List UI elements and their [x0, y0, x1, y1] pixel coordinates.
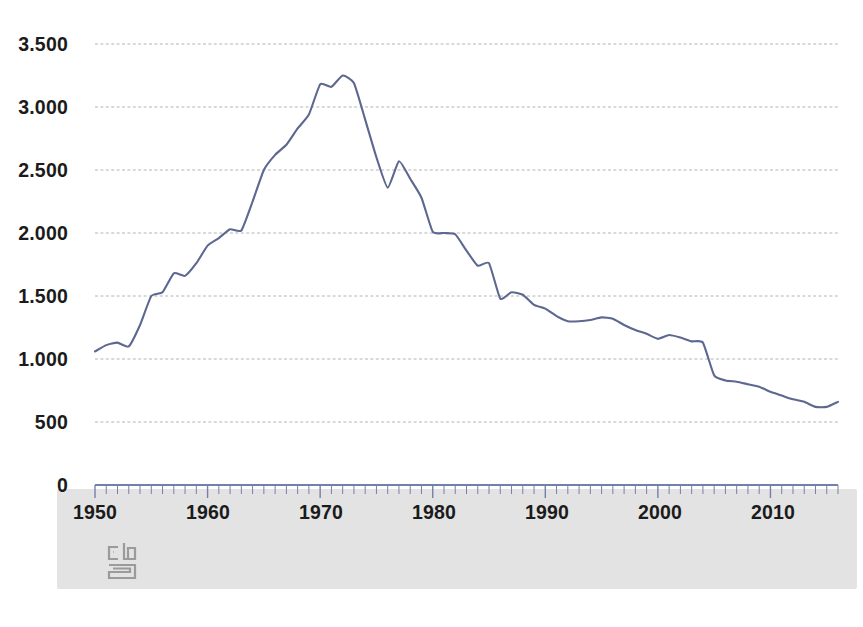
x-tick-label-1970: 1970: [281, 501, 361, 524]
x-axis: [95, 485, 838, 498]
cbs-logo-icon: [104, 541, 140, 583]
data-series-line: [95, 75, 838, 407]
x-tick-label-1950: 1950: [55, 501, 135, 524]
y-tick-label-500: 500: [0, 411, 68, 434]
gridlines: [95, 44, 838, 422]
x-tick-label-1960: 1960: [168, 501, 248, 524]
y-tick-label-3500: 3.500: [0, 33, 68, 56]
x-tick-label-1980: 1980: [394, 501, 474, 524]
x-tick-label-2010: 2010: [733, 501, 813, 524]
y-tick-label-1500: 1.500: [0, 285, 68, 308]
chart-container: 3.500 3.000 2.500 2.000 1.500 1.000 500 …: [0, 0, 863, 627]
chart-plot-area: [0, 0, 863, 627]
y-tick-label-1000: 1.000: [0, 348, 68, 371]
y-tick-label-0: 0: [0, 474, 68, 497]
x-tick-label-2000: 2000: [620, 501, 700, 524]
y-tick-label-2000: 2.000: [0, 222, 68, 245]
y-tick-label-2500: 2.500: [0, 159, 68, 182]
x-tick-label-1990: 1990: [507, 501, 587, 524]
y-tick-label-3000: 3.000: [0, 96, 68, 119]
